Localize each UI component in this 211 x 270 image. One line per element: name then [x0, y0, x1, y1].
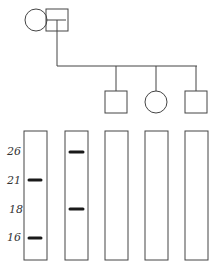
- lane-child3: [185, 131, 208, 260]
- gel-lanes: [24, 131, 208, 260]
- size-label-18: 18: [9, 203, 29, 216]
- pedigree-chart: [25, 9, 207, 113]
- mother-symbol: [25, 9, 47, 31]
- size-label-16: 16: [7, 231, 27, 244]
- child2-symbol: [145, 91, 167, 113]
- child3-symbol: [185, 91, 207, 113]
- lane-mother: [24, 131, 47, 260]
- child1-symbol: [105, 91, 127, 113]
- lane-child1: [105, 131, 128, 260]
- lane-father: [65, 131, 88, 260]
- lane-child2: [145, 131, 168, 260]
- pedigree-gel-diagram: [0, 0, 211, 270]
- size-label-21: 21: [7, 174, 27, 187]
- size-label-26: 26: [7, 145, 27, 158]
- gel-bands: [29, 152, 83, 238]
